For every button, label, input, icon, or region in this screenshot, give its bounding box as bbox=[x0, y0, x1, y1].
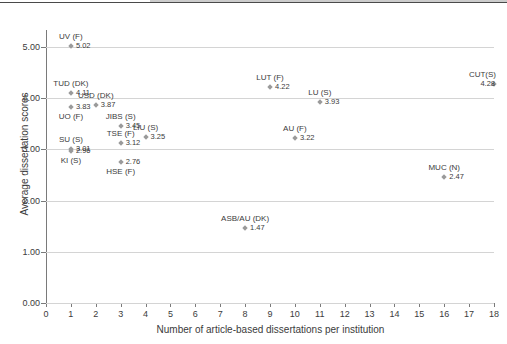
y-tick-label: 4.00 bbox=[0, 94, 40, 103]
diamond-marker-icon bbox=[267, 84, 273, 90]
diamond-marker-icon bbox=[143, 134, 149, 140]
y-tick-label-text: 2.00 bbox=[4, 197, 40, 206]
x-tick-label: 4 bbox=[136, 309, 156, 319]
diamond-marker-icon bbox=[242, 225, 248, 231]
x-tick-label: 10 bbox=[285, 309, 305, 319]
x-tick-label: 14 bbox=[384, 309, 404, 319]
x-tick-label: 7 bbox=[210, 309, 230, 319]
data-point-label: UO (F) bbox=[59, 112, 83, 121]
x-tick-label: 12 bbox=[335, 309, 355, 319]
data-point-label: HSE (F) bbox=[106, 167, 135, 176]
x-axis-title-text: Number of article-based dissertations pe… bbox=[46, 324, 495, 336]
x-tick-label: 2 bbox=[86, 309, 106, 319]
data-point-label: TUD (DK) bbox=[53, 79, 88, 88]
x-tick-label: 11 bbox=[310, 309, 330, 319]
gridline bbox=[46, 201, 494, 202]
y-tick-label: 0.00 bbox=[0, 299, 40, 308]
data-point-value: 5.02 bbox=[76, 42, 91, 50]
y-tick-label-text: 0.00 bbox=[4, 299, 40, 308]
y-tick-label: 2.00 bbox=[0, 197, 40, 206]
data-point-value: 4.22 bbox=[275, 83, 290, 91]
diamond-marker-icon bbox=[68, 148, 74, 154]
x-tick-label: 6 bbox=[185, 309, 205, 319]
diamond-marker-icon bbox=[317, 99, 323, 105]
data-point-value: 3.22 bbox=[300, 134, 315, 142]
y-tick-label-text: 1.00 bbox=[4, 248, 40, 257]
data-point-label: LIU (S) bbox=[133, 123, 158, 132]
data-point-label: USD (DK) bbox=[78, 91, 114, 100]
data-point-label: CUT(S) bbox=[469, 70, 496, 79]
diamond-marker-icon bbox=[118, 159, 124, 165]
x-tick-label: 8 bbox=[235, 309, 255, 319]
y-tick-label: 3.00 bbox=[0, 145, 40, 154]
diamond-marker-icon bbox=[68, 43, 74, 49]
y-tick-label: 1.00 bbox=[0, 248, 40, 257]
data-point-label: JIBS (S) bbox=[106, 112, 136, 121]
data-point-label: LUT (F) bbox=[256, 73, 283, 82]
data-point-value: 2.47 bbox=[449, 173, 464, 181]
data-point-label: KI (S) bbox=[61, 156, 81, 165]
data-point-value: 3.87 bbox=[101, 101, 116, 109]
x-tick-label: 17 bbox=[459, 309, 479, 319]
diamond-marker-icon bbox=[68, 104, 74, 110]
x-tick-label: 16 bbox=[434, 309, 454, 319]
x-tick-label: 9 bbox=[260, 309, 280, 319]
diamond-marker-icon bbox=[93, 102, 99, 108]
data-point-label: MUC (N) bbox=[428, 163, 460, 172]
plot-area: UV (F)5.02TUD (DK)4.11UO (F)3.83SU (S)3.… bbox=[46, 47, 494, 303]
y-tick-label: 5.00 bbox=[0, 43, 40, 52]
data-point-value: 1.47 bbox=[250, 224, 265, 232]
gridline bbox=[46, 252, 494, 253]
x-tick-label: 15 bbox=[409, 309, 429, 319]
y-tick-label-text: 5.00 bbox=[4, 43, 40, 52]
data-point-value: 4.28 bbox=[480, 80, 495, 88]
y-tick-label-text: 3.00 bbox=[4, 145, 40, 154]
gridline bbox=[46, 149, 494, 150]
y-tick-label-text: 4.00 bbox=[4, 94, 40, 103]
data-point-label: ASB/AU (DK) bbox=[221, 214, 269, 223]
diamond-marker-icon bbox=[68, 90, 74, 96]
x-tick-label: 18 bbox=[484, 309, 504, 319]
data-point-value: 2.96 bbox=[76, 147, 91, 155]
data-point-value: 3.93 bbox=[325, 98, 340, 106]
data-point-value: 3.25 bbox=[151, 133, 166, 141]
scatter-chart-figure: Average dissertation scores 0.001.002.00… bbox=[0, 0, 507, 344]
x-tick-label: 1 bbox=[61, 309, 81, 319]
x-tick-mark bbox=[494, 303, 495, 307]
x-tick-label: 5 bbox=[160, 309, 180, 319]
data-point-label: LU (S) bbox=[308, 88, 331, 97]
gridline bbox=[46, 47, 494, 48]
data-point-value: 2.76 bbox=[126, 158, 141, 166]
data-point-label: AU (F) bbox=[283, 124, 307, 133]
x-tick-label: 3 bbox=[111, 309, 131, 319]
gridline bbox=[46, 303, 494, 304]
diamond-marker-icon bbox=[441, 174, 447, 180]
x-tick-label: 0 bbox=[36, 309, 56, 319]
diamond-marker-icon bbox=[292, 135, 298, 141]
data-point-label: UV (F) bbox=[59, 32, 83, 41]
data-point-value: 3.83 bbox=[76, 103, 91, 111]
data-point-value: 3.12 bbox=[126, 139, 141, 147]
data-point-label: TSE (F) bbox=[107, 129, 135, 138]
diamond-marker-icon bbox=[118, 140, 124, 146]
data-point-label: SU (S) bbox=[59, 135, 83, 144]
x-tick-label: 13 bbox=[360, 309, 380, 319]
